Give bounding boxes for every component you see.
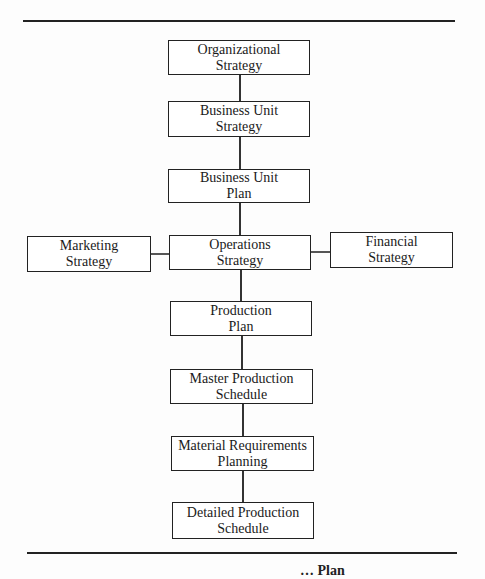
node-label-line1: Financial bbox=[365, 234, 417, 250]
figure-caption-partial: … Plan bbox=[300, 563, 345, 579]
connector-org-bus bbox=[239, 75, 241, 101]
node-label-line1: Master Production bbox=[190, 371, 294, 387]
connector-mrp-dps bbox=[242, 471, 244, 502]
node-label-line2: Schedule bbox=[216, 387, 267, 403]
node-detailed-production-schedule: Detailed Production Schedule bbox=[172, 502, 314, 539]
node-label-line1: Organizational bbox=[198, 42, 281, 58]
node-material-requirements-planning: Material Requirements Planning bbox=[171, 436, 314, 471]
node-label-line2: Planning bbox=[218, 454, 268, 470]
node-label-line2: Strategy bbox=[66, 254, 113, 270]
node-label-line2: Plan bbox=[229, 319, 254, 335]
top-rule bbox=[23, 20, 455, 22]
node-operations-strategy: Operations Strategy bbox=[169, 235, 311, 270]
node-label-line1: Detailed Production bbox=[187, 505, 299, 521]
node-label-line2: Strategy bbox=[216, 119, 263, 135]
node-label-line2: Strategy bbox=[217, 253, 264, 269]
node-label-line2: Schedule bbox=[217, 521, 268, 537]
connector-mkt-ops bbox=[151, 253, 169, 255]
connector-ops-pp bbox=[240, 270, 242, 301]
bottom-rule bbox=[27, 552, 457, 554]
node-organizational-strategy: Organizational Strategy bbox=[168, 40, 310, 75]
node-financial-strategy: Financial Strategy bbox=[330, 232, 453, 268]
connector-pp-mps bbox=[241, 336, 243, 369]
connector-ops-fin bbox=[311, 251, 330, 253]
connector-mps-mrp bbox=[242, 404, 244, 436]
node-label-line1: Operations bbox=[209, 237, 270, 253]
node-label-line1: Business Unit bbox=[200, 170, 278, 186]
node-label-line1: Business Unit bbox=[200, 103, 278, 119]
node-label-line2: Strategy bbox=[368, 250, 415, 266]
node-label-line2: Plan bbox=[227, 186, 252, 202]
node-business-unit-strategy: Business Unit Strategy bbox=[168, 101, 310, 137]
node-label-line2: Strategy bbox=[216, 58, 263, 74]
connector-bus-bup bbox=[239, 137, 241, 169]
node-label-line1: Production bbox=[210, 303, 271, 319]
node-marketing-strategy: Marketing Strategy bbox=[27, 236, 151, 272]
node-business-unit-plan: Business Unit Plan bbox=[168, 169, 310, 203]
node-label-line1: Material Requirements bbox=[178, 438, 307, 454]
node-production-plan: Production Plan bbox=[170, 301, 312, 336]
node-label-line1: Marketing bbox=[60, 238, 118, 254]
node-master-production-schedule: Master Production Schedule bbox=[170, 369, 313, 404]
connector-bup-ops bbox=[239, 203, 241, 235]
